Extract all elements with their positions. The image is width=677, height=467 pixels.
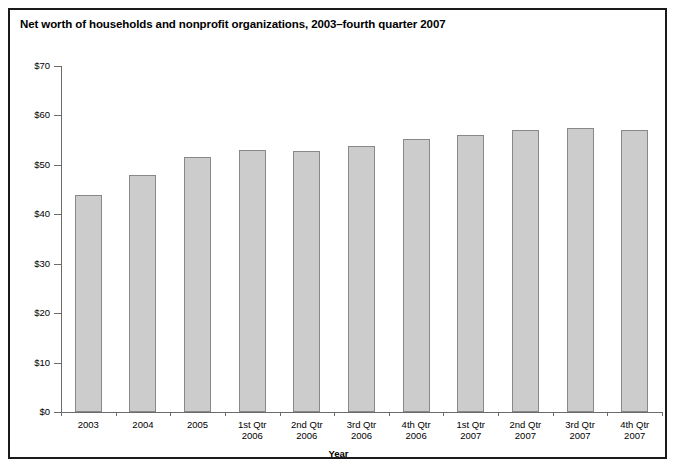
x-axis-tick [607,412,608,416]
bar [293,151,320,412]
x-axis-category-line: 1st Qtr [443,419,498,430]
bar [457,135,484,412]
x-axis-label: Year [0,448,677,459]
x-axis-tick [280,412,281,416]
y-axis-tick [54,264,62,265]
x-axis-category-label: 1st Qtr2006 [225,419,280,441]
x-axis-category-line: 4th Qtr [389,419,444,430]
x-axis-category-label: 4th Qtr2007 [607,419,662,441]
x-axis-category-line: 2006 [280,430,335,441]
bar [239,150,266,412]
bar [403,139,430,412]
x-axis-category-line: 2nd Qtr [498,419,553,430]
x-axis-category-line: 2007 [443,430,498,441]
x-axis-category-line: 2006 [225,430,280,441]
y-axis-tick [54,66,62,67]
bar [184,157,211,412]
x-axis-tick [662,412,663,416]
x-axis-category-line: 2003 [61,419,116,430]
plot-wrapper: $0$10$20$30$40$50$60$70 2003200420051st … [0,0,677,467]
x-axis-category-label: 1st Qtr2007 [443,419,498,441]
x-axis-category-label: 2nd Qtr2007 [498,419,553,441]
x-axis-tick [116,412,117,416]
x-axis-category-label: 3rd Qtr2006 [334,419,389,441]
y-axis-tick [54,165,62,166]
x-axis-category-line: 3rd Qtr [334,419,389,430]
bar [567,128,594,412]
x-axis-category-line: 2004 [116,419,171,430]
y-axis-tick [54,363,62,364]
x-axis-category-line: 3rd Qtr [553,419,608,430]
x-axis-tick [225,412,226,416]
chart-page: Net worth of households and nonprofit or… [0,0,677,467]
y-axis-tick [54,313,62,314]
bar [621,130,648,412]
bar [512,130,539,412]
y-axis-tick-label: $20 [8,308,50,318]
x-axis-category-line: 2007 [498,430,553,441]
x-axis-category-line: 1st Qtr [225,419,280,430]
x-axis-tick [334,412,335,416]
bar [75,195,102,412]
x-axis-category-label: 2nd Qtr2006 [280,419,335,441]
x-axis-tick [389,412,390,416]
x-axis-category-label: 3rd Qtr2007 [553,419,608,441]
x-axis-category-line: 2006 [389,430,444,441]
x-axis-category-label: 4th Qtr2006 [389,419,444,441]
x-axis-category-label: 2004 [116,419,171,430]
x-axis-line [61,412,662,413]
y-axis-tick-label: $0 [8,407,50,417]
y-axis-tick [54,115,62,116]
y-axis-line [61,66,62,413]
x-axis-category-label: 2003 [61,419,116,430]
x-axis-tick [170,412,171,416]
y-axis-tick-label: $10 [8,358,50,368]
bar [129,175,156,412]
y-axis-tick-label: $50 [8,160,50,170]
x-axis-category-line: 4th Qtr [607,419,662,430]
x-axis-category-line: 2007 [607,430,662,441]
x-axis-tick [498,412,499,416]
x-axis-category-line: 2007 [553,430,608,441]
x-axis-category-label: 2005 [170,419,225,430]
x-axis-tick [553,412,554,416]
y-axis-tick-label: $40 [8,209,50,219]
y-axis-tick [54,214,62,215]
x-axis-category-line: 2nd Qtr [280,419,335,430]
y-axis-tick-label: $60 [8,110,50,120]
x-axis-category-line: 2006 [334,430,389,441]
bar [348,146,375,412]
y-axis-tick-label: $70 [8,61,50,71]
x-axis-tick [61,412,62,416]
x-axis-category-line: 2005 [170,419,225,430]
y-axis-tick-label: $30 [8,259,50,269]
x-axis-tick [443,412,444,416]
